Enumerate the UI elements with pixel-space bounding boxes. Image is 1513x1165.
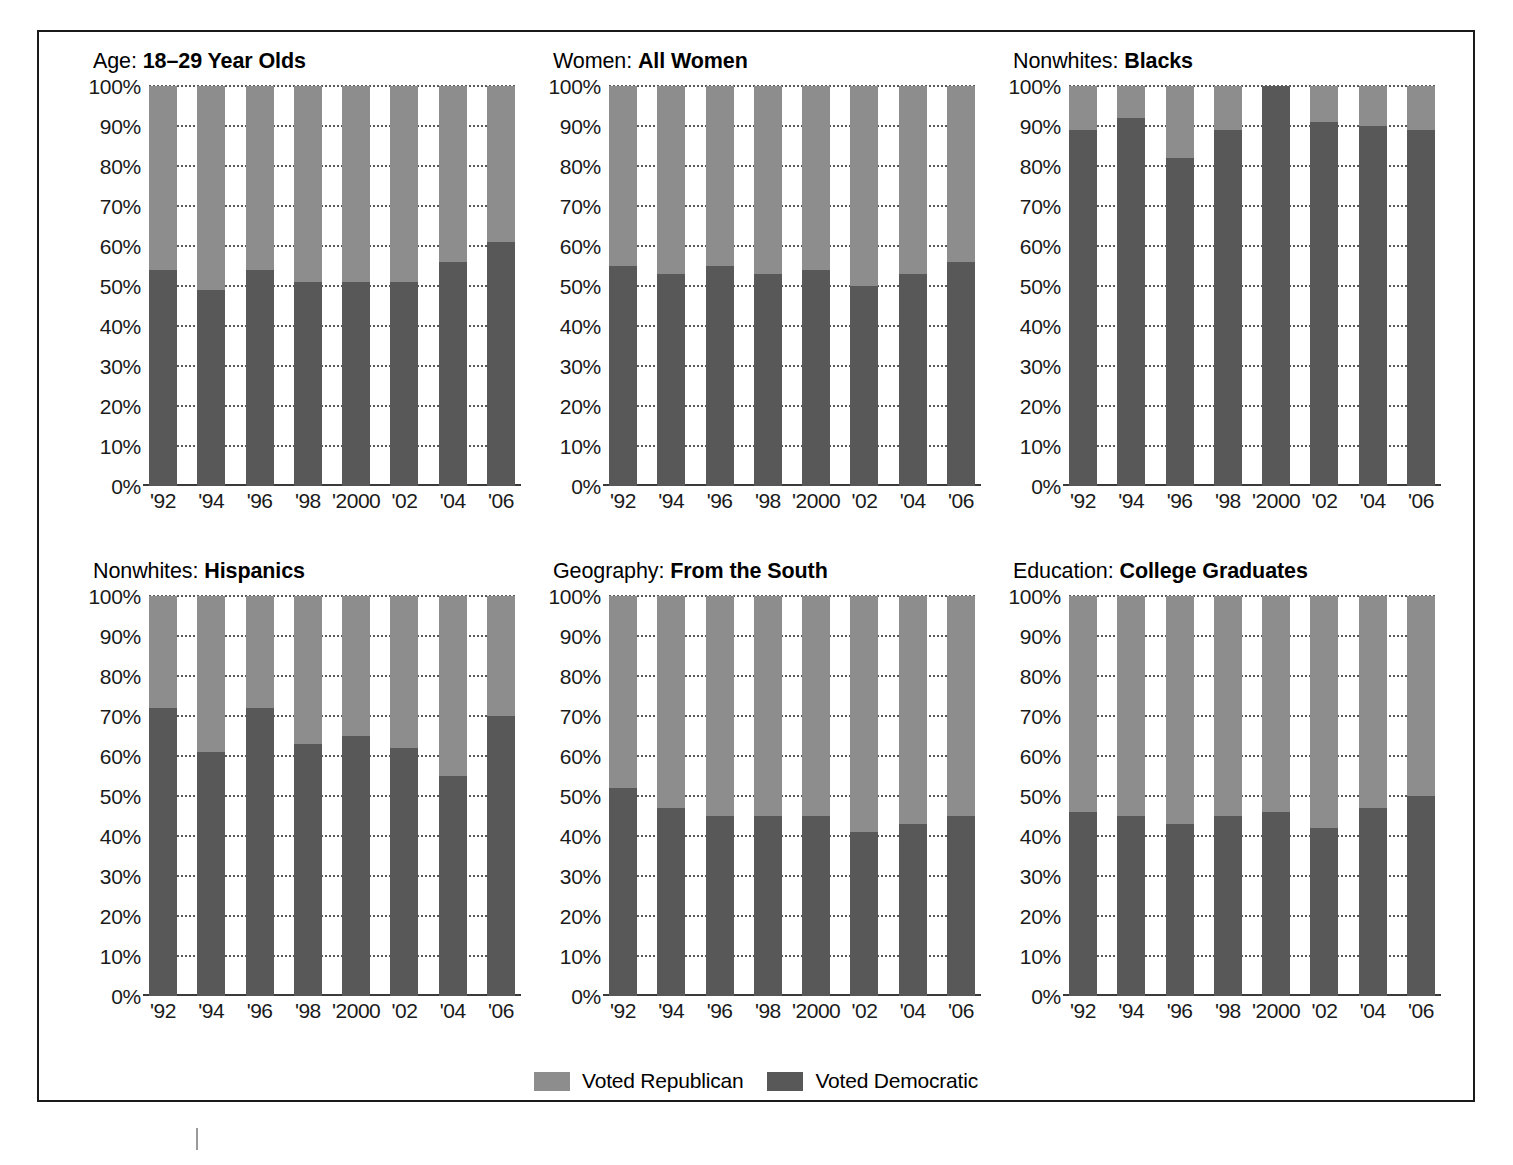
y-axis-tick-label: 100% (88, 76, 141, 97)
y-axis-tick-label: 100% (548, 76, 601, 97)
y-axis-tick-label: 70% (560, 196, 601, 217)
y-axis-tick-label: 30% (1020, 356, 1061, 377)
chart-panel: Nonwhites: Hispanics100%90%80%70%60%50%4… (61, 558, 531, 1058)
y-axis-tick-label: 60% (1020, 746, 1061, 767)
stacked-bar (899, 596, 927, 996)
y-axis-tick-label: 100% (1008, 586, 1061, 607)
bar-segment-democratic (657, 274, 685, 486)
y-axis-tick-label: 70% (100, 706, 141, 727)
y-axis-tick-label: 40% (100, 826, 141, 847)
bar-group (149, 86, 515, 486)
x-axis-tick-text: '2000 (792, 998, 840, 1024)
y-axis-tick-label: 100% (88, 586, 141, 607)
x-axis-tick-label: '94 (197, 998, 225, 1028)
plot-area: 100%90%80%70%60%50%40%30%20%10%0%'92'94'… (61, 596, 531, 1036)
bar-segment-democratic (802, 816, 830, 996)
x-axis-tick-label: '06 (1407, 488, 1435, 518)
legend-item[interactable]: Voted Democratic (767, 1070, 978, 1092)
bar-segment-democratic (1262, 812, 1290, 996)
stacked-bar (439, 596, 467, 996)
bar-segment-democratic (487, 242, 515, 486)
stacked-bar (246, 86, 274, 486)
bar-segment-democratic (754, 274, 782, 486)
y-axis-tick-label: 50% (1020, 276, 1061, 297)
x-axis-tick-label: '96 (246, 998, 274, 1028)
bar-segment-republican (899, 596, 927, 824)
bar-group (609, 596, 975, 996)
bar-segment-democratic (802, 270, 830, 486)
x-axis-tick-label: '98 (754, 998, 782, 1028)
stacked-bar (390, 596, 418, 996)
x-axis-tick-label: '04 (439, 998, 467, 1028)
x-axis-tick-text: '02 (1311, 998, 1337, 1024)
bar-column (294, 596, 322, 996)
legend-item[interactable]: Voted Republican (534, 1070, 743, 1092)
bar-group (609, 86, 975, 486)
bar-column (850, 596, 878, 996)
panel-title: Nonwhites: Hispanics (61, 558, 531, 586)
x-axis-tick-text: '96 (247, 488, 273, 514)
x-axis-tick-label: '94 (197, 488, 225, 518)
y-axis-tick-label: 90% (560, 626, 601, 647)
legend-swatch-icon (767, 1072, 803, 1091)
bar-segment-democratic (197, 752, 225, 996)
plot-canvas (609, 86, 975, 486)
bar-segment-republican (947, 86, 975, 262)
panel-title: Women: All Women (521, 48, 991, 76)
y-axis-tick-label: 70% (560, 706, 601, 727)
y-axis-tick-label: 10% (1020, 946, 1061, 967)
bar-column (197, 596, 225, 996)
panel-title-prefix: Education: (1013, 559, 1114, 583)
bar-segment-democratic (487, 716, 515, 996)
y-axis-tick-label: 40% (560, 316, 601, 337)
x-axis-tick-text: '06 (1408, 488, 1434, 514)
legend-label: Voted Democratic (815, 1070, 978, 1092)
bar-segment-republican (754, 86, 782, 274)
stacked-bar (1117, 596, 1145, 996)
bar-segment-republican (754, 596, 782, 816)
bar-segment-democratic (1359, 808, 1387, 996)
panel-title-prefix: Nonwhites: (1013, 49, 1118, 73)
y-axis-tick-label: 80% (1020, 666, 1061, 687)
plot-area: 100%90%80%70%60%50%40%30%20%10%0%'92'94'… (521, 86, 991, 526)
stacked-bar (1069, 86, 1097, 486)
bar-segment-democratic (390, 282, 418, 486)
bar-segment-democratic (1310, 828, 1338, 996)
bar-segment-republican (1359, 86, 1387, 126)
y-axis-tick-label: 100% (1008, 76, 1061, 97)
bar-column (246, 86, 274, 486)
x-axis-tick-label: '04 (899, 488, 927, 518)
stacked-bar (294, 596, 322, 996)
bar-segment-republican (947, 596, 975, 816)
scan-artifact (196, 1128, 198, 1150)
panel-title-prefix: Nonwhites: (93, 559, 198, 583)
y-axis-tick-label: 0% (571, 476, 601, 497)
bar-segment-republican (1117, 86, 1145, 118)
plot-area: 100%90%80%70%60%50%40%30%20%10%0%'92'94'… (521, 596, 991, 1036)
bar-segment-republican (1214, 596, 1242, 816)
x-axis-tick-label: '96 (706, 998, 734, 1028)
stacked-bar (1214, 596, 1242, 996)
plot-canvas (609, 596, 975, 996)
bar-segment-republican (657, 86, 685, 274)
x-axis-tick-label: '92 (1069, 998, 1097, 1028)
x-axis-tick-label: '02 (390, 998, 418, 1028)
bar-segment-democratic (706, 266, 734, 486)
bar-segment-republican (609, 596, 637, 788)
chart-panel: Nonwhites: Blacks100%90%80%70%60%50%40%3… (981, 48, 1451, 548)
bar-segment-republican (802, 596, 830, 816)
panel-title-group: 18–29 Year Olds (143, 49, 306, 73)
bar-group (1069, 596, 1435, 996)
x-axis-tick-label: '04 (1359, 998, 1387, 1028)
bar-column (1214, 86, 1242, 486)
x-axis-tick-text: '04 (900, 488, 926, 514)
bar-segment-republican (1262, 596, 1290, 812)
bar-segment-republican (657, 596, 685, 808)
bar-segment-republican (1214, 86, 1242, 130)
x-axis: '92'94'96'98'2000'02'04'06 (149, 488, 515, 518)
stacked-bar (754, 596, 782, 996)
y-axis-tick-label: 20% (560, 396, 601, 417)
x-axis-tick-label: '94 (657, 998, 685, 1028)
bar-segment-democratic (342, 736, 370, 996)
y-axis-tick-label: 0% (111, 986, 141, 1007)
